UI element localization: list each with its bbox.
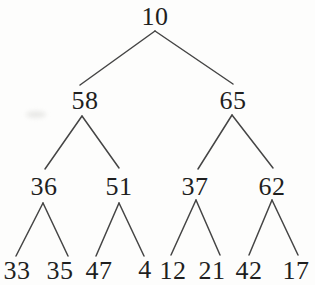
tree-node-36: 36 [31,174,58,200]
tree-node-4: 4 [138,257,152,283]
binary-tree-diagram: 10 58 65 36 51 37 62 33 35 47 4 12 21 42… [0,0,315,285]
edge-37-21 [196,200,220,255]
tree-node-47: 47 [86,258,113,284]
tree-node-62: 62 [259,174,286,200]
tree-node-17: 17 [283,258,310,284]
tree-node-33: 33 [4,258,31,284]
tree-node-21: 21 [199,258,226,284]
edge-65-37 [198,115,232,169]
tree-node-10: 10 [142,4,169,30]
tree-node-42: 42 [236,258,263,284]
tree-node-37: 37 [182,174,209,200]
edge-10-65 [155,31,233,84]
edge-51-47 [96,203,119,256]
edge-51-4 [119,203,144,256]
edge-65-62 [232,115,273,168]
edge-37-12 [171,200,196,255]
edge-10-58 [80,31,155,85]
tree-node-35: 35 [47,258,74,284]
edge-36-35 [43,203,68,256]
tree-node-58: 58 [72,88,99,114]
edge-62-17 [272,200,298,255]
edge-58-36 [45,116,82,169]
tree-edges [0,0,315,285]
edge-58-51 [82,116,119,168]
tree-node-65: 65 [220,88,247,114]
tree-node-12: 12 [160,258,187,284]
edge-36-33 [16,203,43,256]
tree-node-51: 51 [106,174,133,200]
edge-62-42 [249,200,272,255]
